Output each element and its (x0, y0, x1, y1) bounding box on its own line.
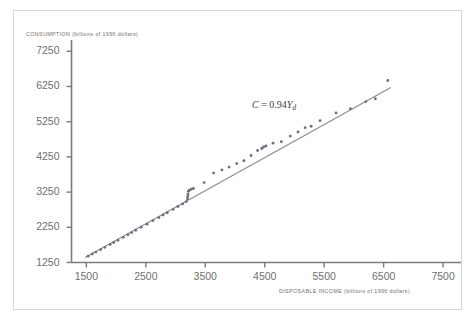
data-point (192, 187, 195, 190)
x-axis-tick-label: 2500 (123, 270, 169, 282)
data-point (109, 243, 112, 246)
x-axis-tick-label: 3500 (182, 270, 228, 282)
data-point (91, 253, 94, 256)
data-point (112, 241, 115, 244)
regression-equation-annotation: C = 0.94Yd (252, 99, 296, 112)
data-point (152, 219, 155, 222)
data-point (228, 166, 231, 169)
data-point (289, 135, 292, 138)
equation-subscript: d (292, 104, 296, 112)
data-point (364, 100, 367, 103)
data-point (166, 211, 169, 214)
equation-equals: = (259, 99, 270, 110)
data-point (130, 231, 133, 234)
data-point (140, 226, 143, 229)
y-axis-tick-label: 2250 (20, 220, 60, 232)
y-axis-tick-label: 1250 (20, 256, 60, 268)
data-point (310, 125, 313, 128)
data-point (386, 79, 389, 82)
data-point (157, 216, 160, 219)
x-axis-tick-label: 6500 (361, 270, 407, 282)
data-point (203, 181, 206, 184)
data-point (187, 193, 190, 196)
data-point (172, 208, 175, 211)
data-point (349, 107, 352, 110)
data-point (264, 145, 267, 148)
data-point (297, 130, 300, 133)
x-axis-tick-label: 5500 (301, 270, 347, 282)
y-axis-tick-label: 5250 (20, 115, 60, 127)
data-point (87, 255, 90, 258)
data-point (235, 162, 238, 165)
y-axis-tick-label: 7250 (20, 44, 60, 56)
y-axis-tick-label: 4250 (20, 150, 60, 162)
x-axis-tick-label: 7500 (420, 270, 466, 282)
data-point (94, 251, 97, 254)
data-point (256, 149, 259, 152)
data-point (319, 119, 322, 122)
data-point (99, 248, 102, 251)
data-point (250, 154, 253, 157)
data-point (116, 239, 119, 242)
data-point (103, 246, 106, 249)
data-point (304, 126, 307, 129)
equation-coefficient: 0.94 (269, 99, 287, 110)
y-axis-tick-label: 6250 (20, 79, 60, 91)
data-point (185, 200, 188, 203)
data-point (181, 202, 184, 205)
data-point (335, 111, 338, 114)
data-point (212, 172, 215, 175)
x-axis-tick-label: 4500 (242, 270, 288, 282)
data-point (374, 97, 377, 100)
data-point (272, 142, 275, 145)
x-axis-tick-label: 1500 (63, 270, 109, 282)
data-point (242, 159, 245, 162)
data-point (146, 223, 149, 226)
data-point (220, 168, 223, 171)
equation-symbol-c: C (252, 99, 259, 110)
data-point (176, 205, 179, 208)
y-axis-tick-label: 3250 (20, 185, 60, 197)
data-point (127, 233, 130, 236)
data-point (280, 140, 283, 143)
data-point (134, 229, 137, 232)
data-point (162, 214, 165, 217)
data-point (122, 236, 125, 239)
